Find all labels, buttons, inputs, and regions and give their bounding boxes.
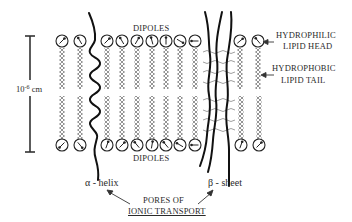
lipid-head-icon	[74, 139, 86, 151]
lipid-head-icon	[235, 139, 247, 151]
hydrophobic-label-line2: LIPID TAIL	[281, 76, 325, 85]
pores-label-line2: IONIC TRANSPORT	[128, 207, 206, 216]
lipid-molecule	[189, 96, 201, 151]
bottom-lipid-layer	[56, 96, 265, 151]
lipid-head-icon	[101, 35, 113, 47]
lipid-head-icon	[160, 35, 172, 47]
lipid-molecule	[131, 35, 143, 89]
lipid-molecule	[116, 35, 128, 89]
lipid-molecule	[74, 35, 86, 89]
lipid-head-icon	[101, 139, 113, 151]
lipid-molecule	[74, 96, 86, 151]
scale-base: 10	[16, 84, 25, 94]
lipid-head-icon	[116, 35, 128, 47]
lipid-head-icon	[160, 139, 172, 151]
lipid-molecule	[160, 35, 172, 89]
scale-unit: cm	[30, 84, 43, 94]
lipid-molecule	[189, 35, 201, 89]
lipid-head-icon	[131, 35, 143, 47]
lipid-head-icon	[56, 139, 68, 151]
lipid-molecule	[146, 96, 158, 151]
lipid-molecule	[116, 96, 128, 151]
alpha-helix-label: α - helix	[85, 178, 119, 188]
lipid-head-icon	[174, 139, 186, 151]
lipid-molecule	[146, 35, 158, 89]
dipoles-top-label: DIPOLES	[133, 24, 169, 33]
lipid-head-icon	[56, 35, 68, 47]
lipid-head-icon	[146, 35, 158, 47]
lipid-molecule	[131, 96, 143, 151]
lipid-head-icon	[116, 139, 128, 151]
hydrophobic-label-line1: HYDROPHOBIC	[272, 64, 336, 73]
lipid-head-icon	[234, 35, 246, 47]
lipid-molecule	[160, 96, 172, 151]
hydrophilic-label-line1: HYDROPHILIC	[276, 31, 336, 40]
lipid-head-icon	[252, 35, 264, 47]
scale-label: 10-6 cm	[16, 84, 42, 94]
lipid-molecule	[56, 35, 68, 89]
lipid-head-icon	[131, 139, 143, 151]
lipid-molecule	[174, 96, 186, 151]
scale-bar	[25, 36, 35, 152]
lipid-head-icon	[74, 35, 86, 47]
lipid-molecule	[253, 96, 265, 151]
lipid-molecule	[56, 96, 68, 151]
lipid-head-icon	[146, 139, 158, 151]
lipid-molecule	[252, 35, 264, 89]
annotation-arrows	[107, 40, 274, 205]
hydrophilic-label-line2: LIPID HEAD	[283, 42, 332, 51]
alpha-helix	[89, 13, 100, 180]
lipid-head-icon	[253, 139, 265, 151]
lipid-head-icon	[189, 35, 201, 47]
lipid-molecule	[101, 96, 113, 151]
beta-sheet-label: β - sheet	[208, 178, 242, 188]
dipoles-bottom-label: DIPOLES	[133, 154, 169, 163]
lipid-molecule	[235, 96, 247, 151]
pores-label-line1: PORES OF	[143, 196, 184, 205]
lipid-molecule	[234, 35, 246, 89]
lipid-molecule	[101, 35, 113, 89]
lipid-head-icon	[174, 35, 186, 47]
lipid-head-icon	[189, 139, 201, 151]
lipid-molecule	[174, 35, 186, 89]
